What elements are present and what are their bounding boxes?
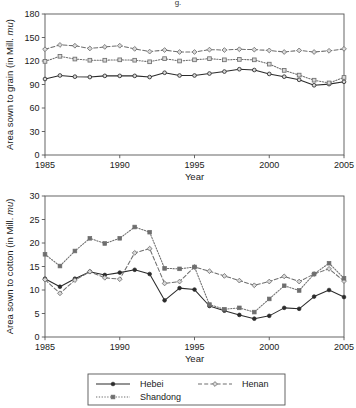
data-point-marker	[148, 230, 152, 234]
y-tick-label: 15	[29, 262, 39, 272]
y-tick-label: 0	[34, 332, 39, 342]
data-point-marker	[58, 54, 62, 58]
data-point-marker	[163, 57, 167, 61]
y-tick-label: 25	[29, 215, 39, 225]
data-point-marker	[103, 74, 107, 78]
data-point-marker	[327, 288, 331, 292]
data-point-marker	[252, 317, 256, 321]
x-tick-label: 1990	[110, 160, 130, 170]
data-point-marker	[163, 267, 167, 271]
data-point-marker	[148, 75, 152, 79]
y-tick-label: 90	[29, 80, 39, 90]
data-point-marker	[282, 306, 286, 310]
data-point-marker	[111, 382, 115, 386]
data-point-marker	[223, 58, 227, 62]
y-tick-label: 10	[29, 285, 39, 295]
x-tick-label: 2000	[259, 160, 279, 170]
data-point-marker	[43, 77, 47, 81]
data-point-marker	[73, 249, 77, 253]
data-point-marker	[58, 285, 62, 289]
x-tick-label: 2005	[334, 342, 354, 352]
data-point-marker	[342, 80, 346, 84]
data-point-marker	[73, 57, 77, 61]
data-point-marker	[342, 295, 346, 299]
data-point-marker	[148, 60, 152, 64]
data-point-marker	[58, 74, 62, 78]
grain-y-axis-title: Area sown to grain (in Mill. mu)	[4, 19, 15, 150]
data-point-marker	[297, 307, 301, 311]
cotton-x-axis-title: Year	[185, 353, 204, 364]
data-point-marker	[252, 68, 256, 72]
data-point-marker	[208, 72, 212, 76]
data-point-marker	[73, 75, 77, 79]
data-point-marker	[133, 268, 137, 272]
chart-legend: HebeiHenanShandong	[88, 374, 285, 405]
data-point-marker	[223, 307, 227, 311]
x-tick-label: 1985	[35, 160, 55, 170]
data-point-marker	[88, 58, 92, 62]
data-point-marker	[282, 69, 286, 73]
grain-x-axis-title: Year	[185, 171, 204, 182]
data-point-marker	[193, 265, 197, 269]
data-point-marker	[88, 236, 92, 240]
data-point-marker	[193, 58, 197, 62]
data-point-marker	[282, 284, 286, 288]
data-point-marker	[178, 74, 182, 78]
x-tick-label: 1995	[184, 342, 204, 352]
x-tick-label: 1985	[35, 342, 55, 352]
data-point-marker	[238, 313, 242, 317]
y-tick-label: 180	[24, 9, 39, 19]
data-point-marker	[178, 286, 182, 290]
data-point-marker	[103, 242, 107, 246]
data-point-marker	[163, 298, 167, 302]
data-point-marker	[252, 58, 256, 62]
data-point-marker	[312, 83, 316, 87]
data-point-marker	[327, 261, 331, 265]
y-tick-label: 30	[29, 127, 39, 137]
data-point-marker	[282, 75, 286, 79]
data-point-marker	[312, 78, 316, 82]
x-tick-label: 1995	[184, 160, 204, 170]
legend-label: Hebei	[140, 379, 164, 389]
x-tick-label: 2000	[259, 342, 279, 352]
data-point-marker	[238, 58, 242, 62]
two-panel-line-chart-figure: g. 0306090120150180 19851990199520002005…	[0, 0, 356, 408]
data-point-marker	[111, 395, 115, 399]
data-point-marker	[118, 271, 122, 275]
data-point-marker	[312, 295, 316, 299]
data-point-marker	[297, 78, 301, 82]
data-point-marker	[178, 59, 182, 63]
data-point-marker	[238, 306, 242, 310]
data-point-marker	[267, 72, 271, 76]
data-point-marker	[133, 58, 137, 62]
y-tick-label: 0	[34, 150, 39, 160]
data-point-marker	[118, 74, 122, 78]
y-tick-label: 120	[24, 56, 39, 66]
data-point-marker	[163, 71, 167, 75]
cropped-header-fragment: g.	[175, 0, 182, 7]
data-point-marker	[43, 252, 47, 256]
data-point-marker	[342, 76, 346, 80]
data-point-marker	[178, 267, 182, 271]
data-point-marker	[267, 62, 271, 66]
data-point-marker	[208, 57, 212, 61]
cotton-y-axis-title: Area sown to cotton (in Mill. mu)	[4, 199, 15, 335]
data-point-marker	[238, 67, 242, 71]
data-point-marker	[193, 74, 197, 78]
x-tick-label: 1990	[110, 342, 130, 352]
data-point-marker	[327, 81, 331, 85]
data-point-marker	[267, 297, 271, 301]
data-point-marker	[342, 276, 346, 280]
data-point-marker	[88, 75, 92, 79]
legend-label: Shandong	[140, 392, 181, 402]
data-point-marker	[133, 74, 137, 78]
data-point-marker	[133, 225, 137, 229]
data-point-marker	[118, 58, 122, 62]
y-tick-label: 20	[29, 238, 39, 248]
data-point-marker	[312, 272, 316, 276]
data-point-marker	[267, 314, 271, 318]
data-point-marker	[223, 70, 227, 74]
data-point-marker	[148, 272, 152, 276]
data-point-marker	[103, 58, 107, 62]
data-point-marker	[252, 310, 256, 314]
